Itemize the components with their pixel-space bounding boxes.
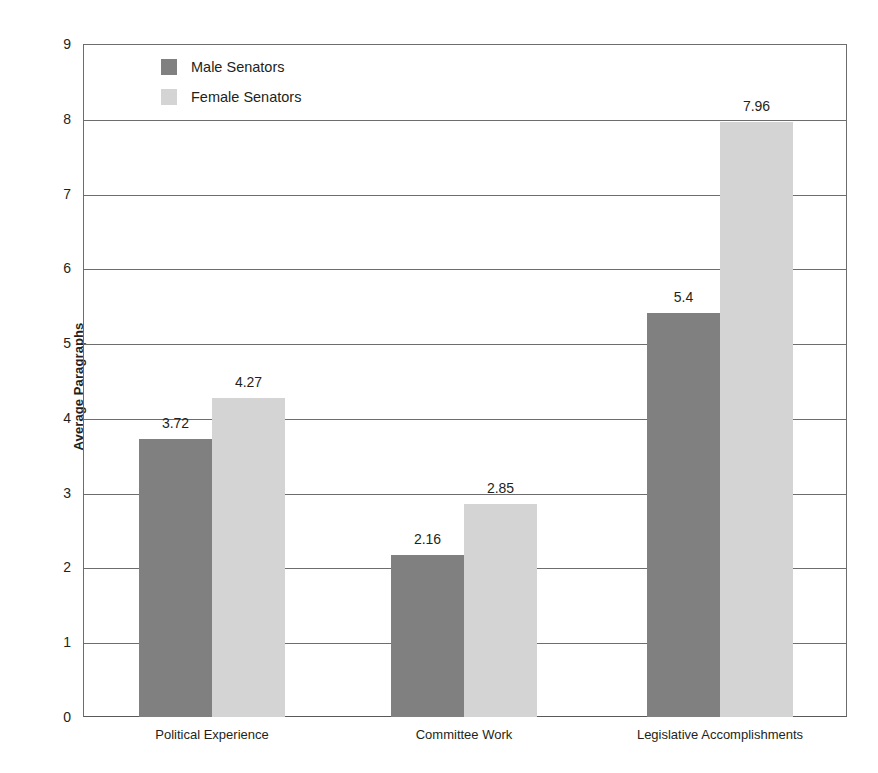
chart-legend: Male SenatorsFemale Senators bbox=[161, 52, 371, 112]
gridline-y-2 bbox=[84, 568, 846, 569]
x-category-label: Committee Work bbox=[416, 727, 513, 742]
plot-area bbox=[83, 44, 847, 717]
x-category-label: Legislative Accomplishments bbox=[637, 727, 803, 742]
y-tick-label: 3 bbox=[49, 485, 71, 501]
gridline-y-4 bbox=[84, 419, 846, 420]
gridline-y-8 bbox=[84, 120, 846, 121]
legend-item-female: Female Senators bbox=[161, 82, 371, 112]
x-category-label: Political Experience bbox=[155, 727, 268, 742]
y-tick-label: 7 bbox=[49, 186, 71, 202]
legend-swatch-icon bbox=[161, 59, 177, 75]
gridline-y-1 bbox=[84, 643, 846, 644]
x-axis-category-labels: Political ExperienceCommittee WorkLegisl… bbox=[83, 727, 847, 751]
legend-swatch-icon bbox=[161, 89, 177, 105]
y-tick-label: 8 bbox=[49, 111, 71, 127]
y-tick-label: 0 bbox=[49, 709, 71, 725]
legend-label: Female Senators bbox=[191, 89, 301, 105]
gridline-y-6 bbox=[84, 269, 846, 270]
gridline-y-7 bbox=[84, 195, 846, 196]
y-tick-label: 1 bbox=[49, 634, 71, 650]
y-tick-label: 4 bbox=[49, 410, 71, 426]
y-tick-label: 6 bbox=[49, 260, 71, 276]
y-tick-label: 9 bbox=[49, 36, 71, 52]
bar-chart: Average Paragraphs 0123456789 3.724.272.… bbox=[0, 0, 878, 773]
y-axis-tick-labels: 0123456789 bbox=[49, 44, 71, 717]
legend-label: Male Senators bbox=[191, 59, 285, 75]
y-tick-label: 2 bbox=[49, 559, 71, 575]
gridline-y-5 bbox=[84, 344, 846, 345]
gridline-y-3 bbox=[84, 494, 846, 495]
legend-item-male: Male Senators bbox=[161, 52, 371, 82]
y-tick-label: 5 bbox=[49, 335, 71, 351]
